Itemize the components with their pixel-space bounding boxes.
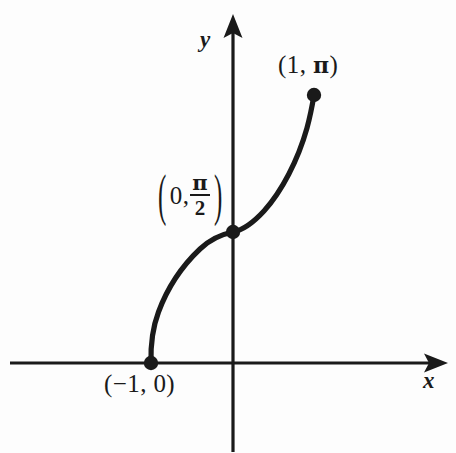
point-label-one-pi-y: π (313, 54, 330, 76)
fraction-pi-over-two: π2 (190, 172, 210, 219)
point-label-minus-one-zero: (−1, 0) (104, 371, 175, 396)
graph-figure: y x (1, π) (0,π2) (−1, 0) (0, 0, 456, 453)
point-marker-zero-pi-over-two (226, 225, 240, 239)
point-marker-minus-one-zero (144, 356, 158, 370)
paren-close-tall: ) (214, 166, 223, 222)
point-label-one-pi-x: 1 (287, 52, 300, 77)
comma: , (183, 183, 190, 208)
paren-close: ) (166, 371, 175, 396)
point-marker-one-pi (307, 88, 321, 102)
point-label-minus-one-zero-x: −1 (113, 371, 140, 396)
paren-close: ) (329, 52, 338, 77)
point-label-one-pi: (1, π) (278, 52, 338, 77)
paren-open: ( (104, 371, 113, 396)
fraction-denominator: 2 (190, 197, 210, 219)
comma: , (140, 371, 153, 396)
fraction-numerator: π (190, 172, 210, 194)
comma: , (300, 52, 313, 77)
point-label-minus-one-zero-y: 0 (153, 371, 166, 396)
y-axis-label: y (200, 28, 210, 51)
plot-canvas (0, 0, 456, 453)
paren-open-tall: ( (158, 166, 167, 222)
paren-open: ( (278, 52, 287, 77)
x-axis-label: x (423, 369, 435, 392)
point-label-zero-pi-over-two-x: 0 (170, 183, 183, 208)
point-label-zero-pi-over-two: (0,π2) (158, 172, 223, 219)
